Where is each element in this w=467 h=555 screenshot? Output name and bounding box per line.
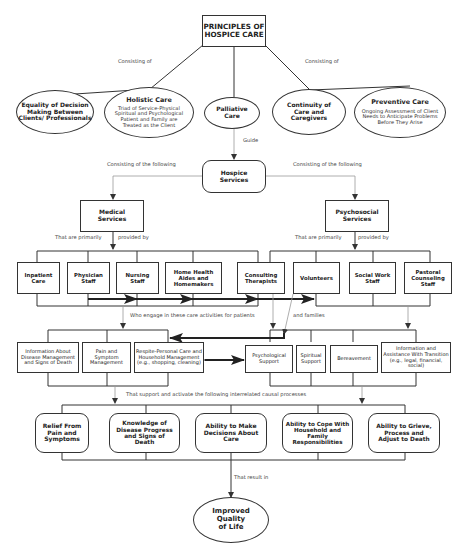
edge-label-support-activate: That support and activate the following … [126,391,306,397]
edge-label-consisting-following-right: Consisting of the following [293,161,362,167]
process-label: Ability to Grieve, Process and Adjust to… [375,423,433,442]
medical-services-box: Medical Services [80,200,144,232]
edge-label-consisting-of-left: Consisting of [118,58,152,64]
activity-label: Bereavement [337,356,371,362]
edge-label-consisting-following-left: Consisting of the following [107,161,176,167]
activity-label: Pain and Symptom Management [86,349,127,366]
principle-continuity: Continuity of Care and Caregivers [272,89,346,135]
root-label: PRINCIPLES OF HOSPICE CARE [203,23,265,39]
provider-volunteers: Volunteers [293,262,340,294]
provider-physician-staff: Physician Staff [67,262,110,294]
process-knowledge-disease: Knowledge of Disease Progress and Signs … [109,413,180,453]
edge-label-consisting-of-right: Consisting of [305,58,339,64]
principle-palliative-care: Palliative Care [204,97,260,129]
psychosocial-services-box: Psychosocial Services [325,200,389,232]
edge-label-guide: Guide [243,137,258,143]
activity-label: Psychological Support [246,353,292,364]
edge-label-provided-by-right: provided by [358,234,389,240]
process-ability-cope: Ability to Cope With Household and Famil… [282,413,353,453]
activity-information-transition: Information and Assistance With Transiti… [381,342,451,373]
process-relief-pain: Relief From Pain and Symptoms [35,413,89,453]
activity-information-disease: Information About Disease Management and… [17,342,79,373]
activity-label: Information About Disease Management and… [18,349,78,366]
provider-home-health-aides: Home Health Aides and Homemakers [165,262,222,294]
provider-consulting-therapists: Consulting Therapists [237,262,285,294]
principle-title: Palliative Care [215,106,249,119]
principles-of-hospice-care-box: PRINCIPLES OF HOSPICE CARE [202,15,266,47]
activity-bereavement: Bereavement [330,345,378,373]
principle-desc: Triad of Service-Physical Spiritual and … [111,106,187,129]
principle-equality: Equality of Decision Making Between Clie… [16,90,94,134]
principle-title: Holistic Care [126,97,172,104]
edge-label-provided-by-left: provided by [118,234,149,240]
activity-spiritual-support: Spiritual Support [296,345,326,373]
provider-label: Volunteers [300,275,333,281]
provider-label: Home Health Aides and Homemakers [166,269,221,287]
activity-psychological-support: Psychological Support [245,345,293,373]
provider-nursing-staff: Nursing Staff [116,262,159,294]
principle-title: Preventive Care [371,99,429,106]
provider-label: Pastoral Counseling Staff [405,269,451,287]
process-ability-decisions: Ability to Make Decisions About Care [195,413,267,453]
outcome-improved-quality-of-life: Improved Quality of Life [193,497,269,543]
hospice-services-box: Hospice Services [202,160,266,193]
outcome-label: Improved Quality of Life [212,508,250,531]
provider-label: Nursing Staff [123,272,152,284]
provider-label: Consulting Therapists [238,272,284,284]
process-label: Ability to Cope With Household and Famil… [283,421,352,446]
edge-label-primarily-left: That are primarily [55,234,102,240]
provider-label: Inpatient Care [18,272,59,284]
principle-desc: Ongoing Assessment of Client Needs to An… [361,109,439,126]
process-label: Ability to Make Decisions About Care [200,423,262,443]
provider-inpatient-care: Inpatient Care [17,262,60,294]
hospice-services-label: Hospice Services [211,170,257,183]
principle-holistic-care: Holistic Care Triad of Service-Physical … [104,87,194,138]
activity-label: Respite-Personal Care and Household Mana… [135,349,203,366]
activity-pain-symptom: Pain and Symptom Management [82,342,131,373]
activity-label: Information and Assistance With Transiti… [382,346,450,368]
principle-title: Continuity of Care and Caregivers [283,102,335,122]
provider-pastoral-counseling-staff: Pastoral Counseling Staff [404,262,452,294]
process-label: Relief From Pain and Symptoms [36,423,88,443]
process-label: Knowledge of Disease Progress and Signs … [114,420,175,446]
edge-label-primarily-right: That are primarily [295,234,342,240]
edge-label-who-engage: Who engage in these care activities for … [130,312,255,318]
provider-social-work-staff: Social Work Staff [349,262,396,294]
service-type-label: Psychosocial Services [330,209,384,222]
principle-title: Equality of Decision Making Between Clie… [17,102,93,122]
activity-respite-care: Respite-Personal Care and Household Mana… [134,342,204,373]
provider-label: Social Work Staff [354,272,391,284]
edge-label-and-families: and families [293,312,325,318]
provider-label: Physician Staff [68,272,109,284]
process-ability-grieve: Ability to Grieve, Process and Adjust to… [368,413,440,453]
service-type-label: Medical Services [89,209,135,222]
principle-preventive-care: Preventive Care Ongoing Assessment of Cl… [354,87,446,138]
edge-label-result-in: That result in [234,474,268,480]
activity-label: Spiritual Support [297,353,325,364]
